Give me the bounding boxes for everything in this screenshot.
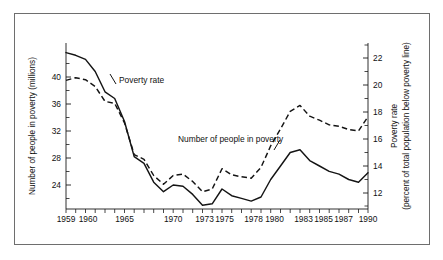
left-tick-label-32: 32 xyxy=(52,126,62,136)
right-tick-label-14: 14 xyxy=(373,161,383,171)
poverty-rate-leader-line xyxy=(110,74,116,84)
x-tick-label-1990: 1990 xyxy=(359,214,378,224)
x-tick-label-1983: 1983 xyxy=(294,214,313,224)
x-tick-label-1978: 1978 xyxy=(244,214,263,224)
right-axis-title-line2: (percent of total population below pover… xyxy=(402,42,411,210)
right-axis-ticks xyxy=(363,45,368,206)
right-tick-label-16: 16 xyxy=(373,134,383,144)
x-tick-label-1985: 1985 xyxy=(314,214,333,224)
x-tick-label-1973: 1973 xyxy=(195,214,214,224)
right-tick-label-18: 18 xyxy=(373,107,383,117)
poverty-chart: 40 36 32 28 24 22 20 18 16 14 12 1959 19… xyxy=(15,14,429,244)
left-axis-title: Number of people in poverty (millions) xyxy=(28,57,37,195)
right-tick-label-20: 20 xyxy=(373,80,383,90)
x-tick-label-1975: 1975 xyxy=(215,214,234,224)
right-axis-title-line1: Poverty rate xyxy=(390,103,399,148)
x-tick-label-1965: 1965 xyxy=(115,214,134,224)
annotation-number-in-poverty: Number of people in poverty xyxy=(178,134,284,144)
x-tick-label-1980: 1980 xyxy=(265,214,284,224)
x-tick-label-1960: 1960 xyxy=(79,214,98,224)
left-tick-label-36: 36 xyxy=(52,99,62,109)
right-tick-label-12: 12 xyxy=(373,188,383,198)
left-tick-label-24: 24 xyxy=(52,180,62,190)
x-tick-label-1959: 1959 xyxy=(57,214,76,224)
right-tick-label-22: 22 xyxy=(373,53,383,63)
left-tick-label-28: 28 xyxy=(52,153,62,163)
figure-border-frame: 40 36 32 28 24 22 20 18 16 14 12 1959 19… xyxy=(14,13,430,245)
left-tick-label-40: 40 xyxy=(52,72,62,82)
figure-root: 40 36 32 28 24 22 20 18 16 14 12 1959 19… xyxy=(0,0,443,260)
left-axis-ticks xyxy=(66,64,71,199)
x-axis-ticks xyxy=(66,209,368,213)
annotation-poverty-rate: Poverty rate xyxy=(119,75,164,85)
x-tick-label-1987: 1987 xyxy=(334,214,353,224)
x-tick-label-1970: 1970 xyxy=(164,214,183,224)
